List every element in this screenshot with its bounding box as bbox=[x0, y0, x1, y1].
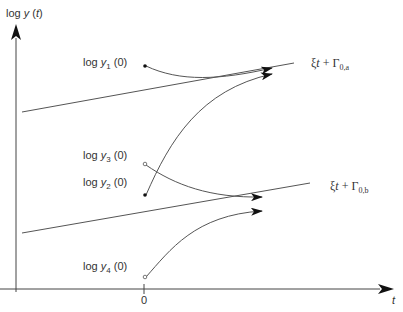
start-point-y1 bbox=[143, 64, 147, 68]
x-axis-arrow-icon bbox=[378, 284, 394, 294]
asymptote-b-line bbox=[22, 183, 310, 233]
origin-tick-label: 0 bbox=[141, 294, 147, 306]
start-point-y3 bbox=[143, 162, 147, 166]
label-log-y3: log y3 (0) bbox=[83, 149, 127, 164]
trajectory-y4 bbox=[146, 211, 262, 277]
label-log-y1: log y1 (0) bbox=[83, 56, 127, 71]
start-point-y2 bbox=[143, 193, 147, 197]
label-asymptote-b: ξt + Γ0,b bbox=[330, 179, 368, 195]
diagram-canvas: log y (t) t 0 log y1 (0) log y3 (0) log … bbox=[0, 0, 403, 312]
y-axis-label: log y (t) bbox=[6, 7, 43, 19]
x-axis-label: t bbox=[392, 294, 396, 306]
label-log-y4: log y4 (0) bbox=[83, 260, 127, 275]
label-asymptote-a: ξt + Γ0,a bbox=[311, 56, 349, 72]
start-point-y4 bbox=[143, 275, 147, 279]
trajectory-y1 bbox=[146, 66, 272, 78]
trajectory-y3 bbox=[146, 165, 262, 197]
label-log-y2: log y2 (0) bbox=[83, 176, 127, 191]
y-axis-arrow-icon bbox=[11, 24, 21, 40]
